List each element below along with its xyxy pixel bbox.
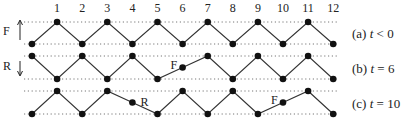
chain-node xyxy=(154,111,161,118)
row-caption: (b) t = 6 xyxy=(352,61,395,76)
chain-node xyxy=(104,88,111,95)
chain-node xyxy=(204,19,211,26)
chain-node xyxy=(305,88,312,95)
chain-node xyxy=(179,88,186,95)
chain-node xyxy=(154,19,161,26)
defect-label: F xyxy=(271,93,278,107)
node-index-label: 8 xyxy=(230,1,236,15)
node-index-label: 11 xyxy=(302,1,314,15)
side-label: F xyxy=(3,24,10,38)
node-index-label: 5 xyxy=(155,1,161,15)
chain-node xyxy=(204,53,211,60)
chain-node xyxy=(104,76,111,83)
chain-node xyxy=(54,19,61,26)
chain-node xyxy=(330,76,337,83)
chain-node xyxy=(330,111,337,118)
side-label: R xyxy=(3,59,11,73)
chain-line xyxy=(32,91,333,114)
chain-node xyxy=(129,41,136,48)
chain-node xyxy=(280,76,287,83)
chain-node xyxy=(330,41,337,48)
chain-node xyxy=(104,19,111,26)
node-index-label: 6 xyxy=(180,1,186,15)
chain-node xyxy=(179,64,186,71)
chain-node xyxy=(230,41,237,48)
node-index-label: 4 xyxy=(129,1,135,15)
chain-node xyxy=(79,53,86,60)
chain-node xyxy=(204,111,211,118)
chain-node xyxy=(29,41,36,48)
chain-node xyxy=(129,99,136,106)
defect-label: R xyxy=(140,95,148,109)
chain-node xyxy=(29,111,36,118)
chain-node xyxy=(230,76,237,83)
chain-node xyxy=(154,76,161,83)
chain-node xyxy=(280,41,287,48)
node-index-label: 3 xyxy=(104,1,110,15)
chain-node xyxy=(305,19,312,26)
chain-node xyxy=(255,53,262,60)
chain-node xyxy=(54,88,61,95)
chain-node xyxy=(179,41,186,48)
node-index-label: 2 xyxy=(79,1,85,15)
node-index-label: 1 xyxy=(54,1,60,15)
chain-node xyxy=(255,111,262,118)
chain-node xyxy=(305,53,312,60)
chain-node xyxy=(29,53,36,60)
chain-node xyxy=(280,99,287,106)
row-caption: (c) t = 10 xyxy=(352,96,400,111)
chain-node xyxy=(230,88,237,95)
spin-chain-diagram: 123456789101112F(a) t < 0FR(b) t = 6RF(c… xyxy=(0,0,420,125)
chain-node xyxy=(129,53,136,60)
node-index-label: 7 xyxy=(205,1,211,15)
chain-node xyxy=(79,41,86,48)
node-index-label: 10 xyxy=(277,1,289,15)
chain-node xyxy=(255,19,262,26)
chain-node xyxy=(54,76,61,83)
node-index-label: 9 xyxy=(255,1,261,15)
chain-node xyxy=(79,111,86,118)
defect-label: F xyxy=(171,58,178,72)
row-caption: (a) t < 0 xyxy=(352,26,394,41)
node-index-label: 12 xyxy=(327,1,339,15)
